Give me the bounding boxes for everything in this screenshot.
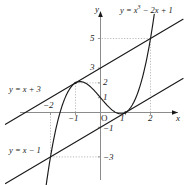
x-tick-label-2: 2	[148, 114, 153, 123]
intersection-point-0	[74, 82, 76, 84]
y-tick-label--1: −1	[103, 124, 114, 133]
y-tick-label-1: 1	[103, 93, 108, 102]
graph-figure: y = x3 − 2x + 1 y = x + 3 y = x − 1 y x …	[0, 0, 188, 185]
y-tick-label-5: 5	[90, 34, 95, 43]
y-tick-label--3: −3	[103, 153, 114, 162]
origin-label: O	[101, 114, 108, 123]
series-2	[6, 78, 184, 183]
curve-label-cubic-rhs: − 2x + 1	[141, 5, 173, 15]
series-0	[42, 14, 155, 185]
axis-label-x: x	[176, 114, 180, 123]
intersection-point-3	[124, 111, 126, 113]
x-tick-label-1: 1	[120, 114, 125, 123]
axis-label-y: y	[95, 5, 99, 14]
y-tick-label-3: 3	[90, 63, 95, 72]
curve-label-cubic-lhs: y = x	[120, 5, 138, 15]
y-tick-label-2: 2	[103, 78, 108, 87]
curve-label-line-lower: y = x − 1	[9, 146, 41, 155]
curve-label-cubic: y = x3 − 2x + 1	[120, 4, 173, 14]
x-tick-label--2: −2	[43, 101, 54, 110]
x-tick-label--1: −1	[68, 114, 79, 123]
curve-label-line-upper: y = x + 3	[9, 85, 41, 94]
